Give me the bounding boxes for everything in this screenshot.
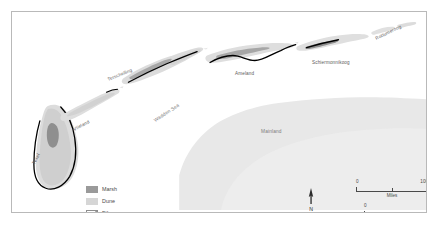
map-legend: Marsh Dune Dike: [86, 184, 148, 213]
scale-miles-start: 0: [356, 180, 359, 185]
legend-item-dike: Dike: [86, 208, 148, 213]
legend-label-marsh: Marsh: [102, 187, 117, 192]
rottumeroog-dune-east: [397, 22, 416, 28]
north-arrow-label: N: [309, 206, 313, 212]
texel-marsh: [47, 123, 59, 148]
island-ameland: [205, 43, 295, 63]
north-arrow-icon: N: [304, 188, 318, 213]
scale-km-mid-tick: [400, 212, 401, 213]
legend-swatch-marsh-icon: [86, 186, 98, 194]
map-frame: Texel Vlieland Terschelling Ameland Schi…: [11, 11, 427, 213]
island-terschelling: [122, 47, 203, 84]
legend-label-dune: Dune: [102, 199, 115, 204]
scale-miles-line: [356, 187, 427, 192]
legend-swatch-dune-icon: [86, 198, 98, 206]
island-rottumeroog: [371, 22, 416, 35]
legend-item-marsh: Marsh: [86, 184, 148, 195]
scale-bars: 0 100 Miles 0 100 Kilometers: [356, 180, 427, 213]
map-figure: Texel Vlieland Terschelling Ameland Schi…: [0, 0, 440, 227]
scale-km-line: [364, 211, 427, 213]
legend-swatch-dike-icon: [86, 210, 98, 213]
vlieland-dune-core: [67, 93, 115, 116]
scale-bar-miles: 0 100 Miles: [356, 180, 427, 204]
rottumeroog-dune-west: [371, 27, 395, 35]
legend-label-dike: Dike: [102, 211, 113, 213]
scale-bar-kilometers: 0 100 Kilometers: [364, 204, 427, 213]
scale-km-start: 0: [364, 204, 367, 209]
scale-miles-mid-tick: [392, 188, 393, 191]
island-schiermonnikoog: [296, 34, 368, 51]
legend-item-dune: Dune: [86, 196, 148, 207]
scale-miles-end: 100: [420, 180, 427, 185]
scale-miles-unit: Miles: [356, 192, 427, 199]
island-vlieland: [60, 89, 119, 121]
